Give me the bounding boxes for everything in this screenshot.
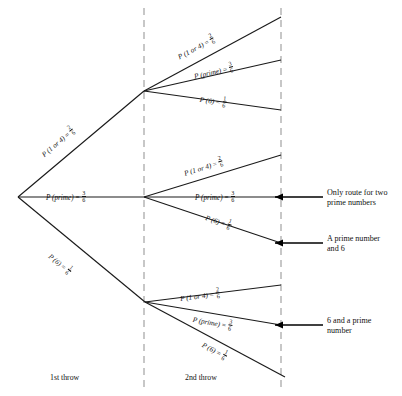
callout-3-line-1: 6 and a prime: [327, 316, 371, 326]
callout-prime-and-6: A prime number and 6: [327, 234, 380, 254]
branch-stage1-1or4: [18, 91, 144, 197]
callout-arrow-1: [275, 193, 323, 200]
callout-only-route-prime: Only route for two prime numbers: [327, 188, 387, 208]
probability-tree-diagram: P (1 or 4) = 2 6 P (prime) = 3 6 P (6) =…: [0, 0, 402, 396]
label-stage1-prime-event: P (prime): [46, 194, 74, 202]
callout-1-line-2: prime numbers: [327, 198, 387, 208]
label-middle-prime-event: P (prime): [195, 194, 223, 202]
callout-6-and-prime: 6 and a prime number: [327, 316, 371, 336]
label-middle-prime: P (prime) = 3 6: [195, 190, 235, 203]
branch-bottom-6: [145, 302, 285, 377]
stage-label-2nd-throw: 2nd throw: [185, 373, 217, 382]
callout-arrow-2: [275, 239, 323, 246]
fraction-middle-prime: 3 6: [231, 190, 235, 203]
callout-2-line-1: A prime number: [327, 234, 380, 244]
branch-stage1-6: [18, 197, 145, 302]
label-bottom-1or4-event: P (1 or 4): [180, 292, 209, 303]
callout-3-line-2: number: [327, 326, 371, 336]
callout-2-line-2: and 6: [327, 244, 380, 254]
callout-1-line-1: Only route for two: [327, 188, 387, 198]
label-top-6-event: P (6): [199, 96, 214, 106]
label-stage1-prime: P (prime) = 3 6: [46, 190, 86, 203]
stage-label-1st-throw: 1st throw: [50, 373, 79, 382]
fraction-stage1-prime: 3 6: [82, 190, 86, 203]
branch-top-1or4: [144, 17, 281, 91]
callout-arrow-3: [275, 321, 323, 328]
